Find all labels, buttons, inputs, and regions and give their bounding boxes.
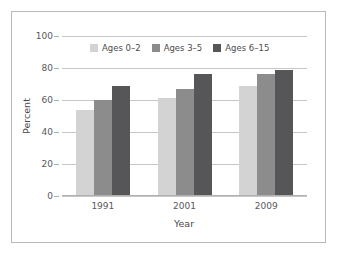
y-tick-label: 100 <box>36 32 53 41</box>
bar <box>176 89 194 196</box>
bar <box>257 74 275 196</box>
legend-swatch-icon <box>213 44 221 52</box>
gridline <box>62 68 307 69</box>
chart-legend: Ages 0–2Ages 3–5Ages 6–15 <box>88 43 271 54</box>
bar <box>94 100 112 196</box>
chart-figure: Percent Year 020406080100 199120012009 A… <box>0 0 337 257</box>
legend-label: Ages 6–15 <box>225 44 269 53</box>
x-tick-label: 2009 <box>255 201 278 211</box>
y-tick-mark <box>54 164 59 165</box>
y-tick-label: 60 <box>42 96 53 105</box>
plot-area: 020406080100 <box>62 36 307 196</box>
gridline <box>62 196 307 197</box>
bar <box>76 110 94 196</box>
x-tick-label: 2001 <box>173 201 196 211</box>
y-tick-mark <box>54 68 59 69</box>
bar <box>239 86 257 196</box>
y-tick-label: 0 <box>47 192 53 201</box>
legend-swatch-icon <box>90 44 98 52</box>
legend-entry: Ages 6–15 <box>213 44 269 53</box>
y-tick-mark <box>54 196 59 197</box>
legend-entry: Ages 0–2 <box>90 44 141 53</box>
bar <box>275 70 293 196</box>
y-tick-label: 20 <box>42 160 53 169</box>
x-tick-label: 1991 <box>91 201 114 211</box>
gridline <box>62 36 307 37</box>
y-tick-mark <box>54 36 59 37</box>
bar <box>112 86 130 196</box>
y-tick-label: 80 <box>42 64 53 73</box>
legend-entry: Ages 3–5 <box>152 44 203 53</box>
x-axis-baseline <box>62 195 307 196</box>
x-axis-label: Year <box>174 218 194 229</box>
legend-label: Ages 0–2 <box>102 44 141 53</box>
legend-swatch-icon <box>152 44 160 52</box>
y-tick-mark <box>54 132 59 133</box>
bar <box>158 98 176 196</box>
y-tick-label: 40 <box>42 128 53 137</box>
y-axis-label: Percent <box>21 98 32 134</box>
legend-label: Ages 3–5 <box>164 44 203 53</box>
bar <box>194 74 212 196</box>
y-tick-mark <box>54 100 59 101</box>
